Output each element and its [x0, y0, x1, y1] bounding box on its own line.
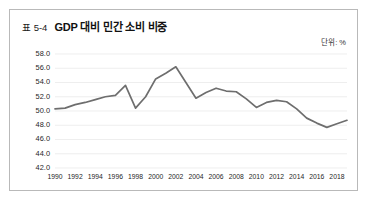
x-axis-tick-label: 2012	[269, 173, 284, 180]
y-axis-tick-label: 50.0	[36, 106, 50, 115]
page-title: GDP 대비 민간 소비 비중	[54, 18, 167, 34]
y-axis-tick-label: 48.0	[36, 120, 50, 129]
y-axis-tick-label: 52.0	[36, 92, 50, 101]
x-axis-tick-label: 1996	[108, 173, 123, 180]
x-axis-tick-label: 2016	[309, 173, 324, 180]
y-axis-tick-label: 54.0	[36, 77, 50, 86]
table-number: 표 5-4	[22, 20, 47, 34]
x-axis-tick-labels: 1990199219941996199820002002200420062008…	[47, 173, 344, 180]
y-axis-tick-label: 46.0	[36, 134, 50, 143]
x-axis-tick-label: 2014	[289, 173, 304, 180]
data-series-line	[55, 67, 347, 128]
x-axis-tick-label: 2002	[168, 173, 183, 180]
x-axis-tick-label: 2004	[188, 173, 203, 180]
y-axis-tick-label: 58.0	[36, 49, 50, 58]
x-axis-tick-label: 1994	[88, 173, 103, 180]
x-axis-tick-label: 2010	[249, 173, 264, 180]
line-chart: 58.056.054.052.050.048.046.044.042.0 199…	[10, 48, 357, 190]
chart-plot-area: 58.056.054.052.050.048.046.044.042.0 199…	[10, 48, 357, 190]
y-axis-tick-label: 44.0	[36, 149, 50, 158]
x-axis-tick-label: 2000	[148, 173, 163, 180]
x-axis-tick-label: 1998	[128, 173, 143, 180]
x-axis-tick-label: 2008	[229, 173, 244, 180]
unit-label: 단위: %	[321, 36, 346, 47]
y-axis-tick-labels: 58.056.054.052.050.048.046.044.042.0	[36, 49, 50, 172]
x-axis-tick-label: 2006	[209, 173, 224, 180]
x-axis-tick-label: 2018	[329, 173, 344, 180]
figure-frame: 표 5-4 GDP 대비 민간 소비 비중 단위: % 58.056.054.0…	[9, 9, 358, 191]
y-axis-tick-label: 42.0	[36, 163, 50, 172]
x-axis-tick-label: 1990	[47, 173, 62, 180]
x-axis-tick-label: 1992	[68, 173, 83, 180]
gridlines	[55, 54, 347, 168]
y-axis-tick-label: 56.0	[36, 63, 50, 72]
figure-title-row: 표 5-4 GDP 대비 민간 소비 비중	[22, 18, 167, 34]
